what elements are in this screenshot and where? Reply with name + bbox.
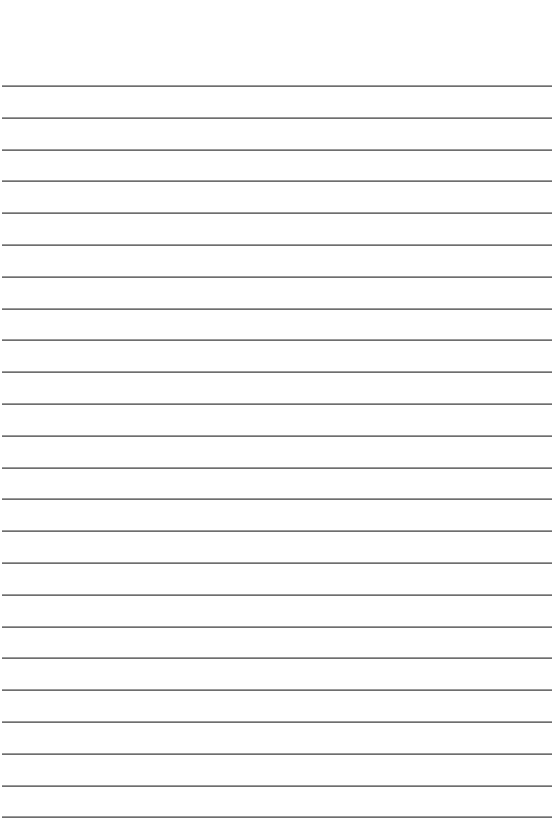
ruled-line bbox=[2, 753, 552, 755]
ruled-line bbox=[2, 530, 552, 532]
ruled-line bbox=[2, 212, 552, 214]
ruled-line bbox=[2, 435, 552, 437]
ruled-line bbox=[2, 180, 552, 182]
ruled-line bbox=[2, 721, 552, 723]
ruled-line bbox=[2, 339, 552, 341]
ruled-line bbox=[2, 594, 552, 596]
ruled-line bbox=[2, 403, 552, 405]
ruled-line bbox=[2, 85, 552, 87]
ruled-line bbox=[2, 657, 552, 659]
ruled-line bbox=[2, 371, 552, 373]
ruled-line bbox=[2, 689, 552, 691]
ruled-line bbox=[2, 467, 552, 469]
ruled-line bbox=[2, 149, 552, 151]
ruled-line bbox=[2, 117, 552, 119]
ruled-line bbox=[2, 626, 552, 628]
ruled-line bbox=[2, 498, 552, 500]
lined-paper-page bbox=[0, 0, 554, 837]
ruled-line bbox=[2, 816, 552, 818]
ruled-line bbox=[2, 276, 552, 278]
ruled-line bbox=[2, 562, 552, 564]
ruled-line bbox=[2, 308, 552, 310]
ruled-line bbox=[2, 244, 552, 246]
ruled-line bbox=[2, 785, 552, 787]
